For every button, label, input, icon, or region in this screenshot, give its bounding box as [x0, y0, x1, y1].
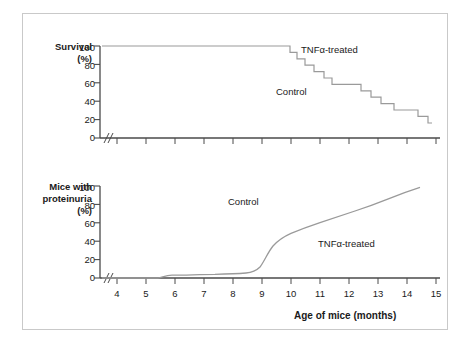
chart-svg [0, 0, 461, 342]
survival-step-curve [102, 46, 432, 123]
top-panel-axes [94, 46, 440, 144]
figure-container: Survival (%) 100 80 60 40 20 0 TNFα-trea… [0, 0, 461, 342]
bottom-panel-axes [94, 186, 440, 284]
proteinuria-curve [102, 187, 420, 278]
